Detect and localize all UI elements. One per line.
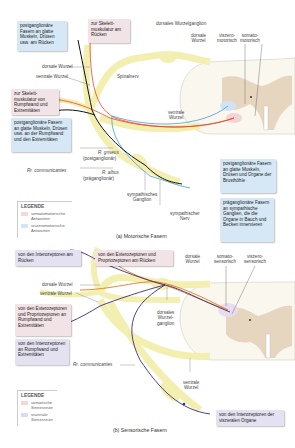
legend-item: somatomotorische Antworten [21, 211, 69, 221]
box-interoceptors-back: von den Interozeptoren am Rücken [15, 250, 81, 266]
label-r-albus: R. albus [102, 170, 119, 175]
box-exteroceptors-trunk: von den Exterozeptoren und Propriozeptor… [15, 304, 71, 336]
label-somatomotor: somato-motorisch [240, 33, 260, 44]
label-ventral-root-right: ventraleWurzel [183, 380, 199, 391]
label-postganglionic: (postganglionär) [83, 156, 116, 161]
label-sympathetic-nerve: sympathischerNerv [170, 211, 200, 222]
legend-item: viszerale Sinnesreize [21, 412, 54, 422]
label-somatosensory: somato-sensorisch [214, 254, 236, 265]
caption-motor: (a) Motorische Fasern [116, 233, 167, 239]
legend-swatch [21, 212, 28, 216]
box-interoceptors-organs: von den Interozeptoren der viszeralen Or… [216, 410, 284, 426]
legend-motor: LEGENDE somatomotorische Antworten visze… [17, 201, 72, 238]
legend-swatch [21, 401, 28, 405]
legend-sensory: LEGENDE somatische Sinnesreize viszerale… [17, 390, 57, 426]
box-postganglionic-trunk: postganglionäre Fasern an glatte Muskeln… [11, 118, 71, 152]
label-visceromotor: viszero-motorisch [217, 33, 237, 44]
legend-item: somatische Sinnesreize [21, 400, 54, 410]
box-skeletal-back: zur Skelett-muskulatur am Rücken [88, 19, 130, 43]
label-dorsal-root-ganglion: dorsalesWurzel-ganglion [157, 310, 174, 326]
label-viscerosensory: viszero-sensorisch [244, 254, 266, 265]
label-dorsal-root-ganglion: dorsales Wurzelganglion [156, 21, 206, 26]
label-preganglionic: (präganglionär) [83, 176, 114, 181]
label-spinal-nerve: Spinalnerv [117, 74, 139, 79]
legend-title: LEGENDE [21, 204, 69, 209]
label-dorsal-root: dorsale Wurzel [42, 282, 73, 287]
caption-sensory: (b) Sensorische Fasern [113, 427, 167, 433]
label-dorsal-root-top: dorsaleWurzel [191, 33, 206, 44]
label-sympathetic-ganglion: sympathischesGanglion [127, 192, 157, 203]
label-ventral-root-right: ventraleWurzel [168, 110, 184, 121]
box-exteroceptors-back: von den Exterozeptoren und Propriozeptor… [95, 250, 173, 266]
box-interoceptors-trunk: von den Interozeptoren an Rumpfwand und … [15, 339, 69, 365]
legend-swatch [21, 224, 28, 228]
label-r-griseus: R. griseus [98, 150, 119, 155]
label-dorsal-root-top: dorsaleWurzel [185, 254, 200, 265]
label-ventral-root: ventrale Wurzel [36, 74, 68, 79]
legend-item: viszeromotorische Antworten [21, 223, 69, 233]
box-skeletal-trunk: zur Skelett-muskulatur von Rumpfwand und… [11, 89, 59, 115]
box-postganglionic-thorax: postganglionäre Fasern an glatte Muskeln… [220, 159, 276, 193]
label-rr-communicantes: Rr. communicantes [73, 362, 112, 367]
box-postganglionic-back: postganglionäre Fasern an glatte Muskeln… [17, 21, 67, 51]
label-dorsal-root: dorsale Wurzel [42, 64, 73, 69]
box-preganglionic-abdomen: präganglionäre Fasern an sympathische Ga… [220, 198, 274, 242]
legend-title: LEGENDE [21, 393, 54, 398]
label-rr-communicantes: Rr. communicantes [27, 168, 66, 173]
legend-swatch [21, 413, 28, 417]
label-ventral-root: ventrale Wurzel [40, 291, 72, 296]
